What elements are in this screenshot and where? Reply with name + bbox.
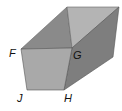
vertex-label-g: G (73, 49, 82, 61)
top-left-face (21, 7, 72, 49)
vertex-label-f: F (9, 47, 17, 59)
vertex-label-j: J (16, 92, 23, 104)
vertex-label-h: H (64, 92, 72, 104)
front-face (21, 48, 72, 90)
prism-diagram: F G J H (0, 0, 122, 111)
